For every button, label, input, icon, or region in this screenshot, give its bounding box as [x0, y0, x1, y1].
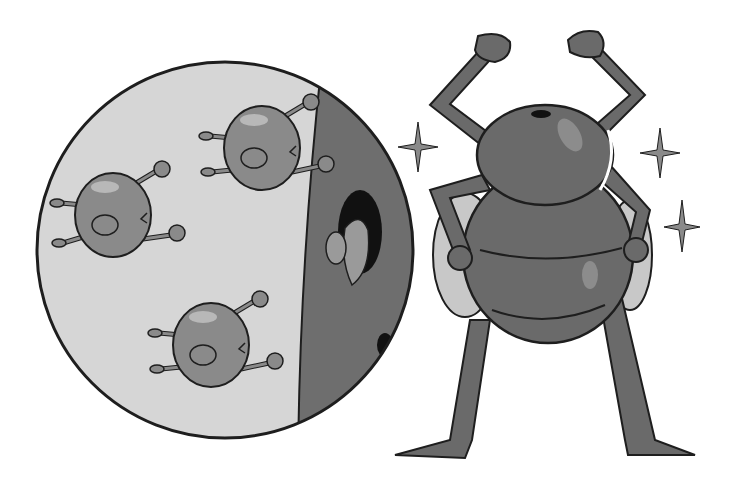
left-leg [395, 320, 490, 458]
illustration [0, 0, 732, 494]
sparkle-icon [640, 128, 680, 178]
illustration-canvas [0, 0, 732, 494]
sparkle-icon [664, 200, 700, 252]
right-leg [600, 290, 695, 455]
right-fist [568, 31, 604, 57]
left-fist [475, 34, 510, 62]
head [477, 105, 613, 205]
strong-bug-character [395, 31, 695, 458]
sparkle-icon [398, 122, 438, 172]
